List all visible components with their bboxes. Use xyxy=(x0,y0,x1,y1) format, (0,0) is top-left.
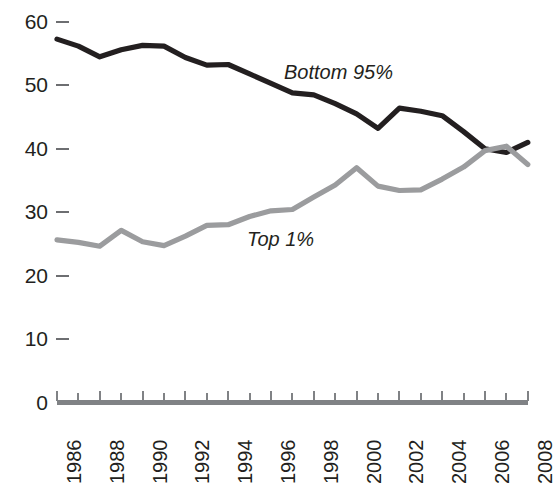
x-tick-1993 xyxy=(206,393,208,401)
x-tick-1997 xyxy=(291,393,293,401)
x-tick-1994 xyxy=(227,391,229,401)
x-tick-1987 xyxy=(77,393,79,401)
x-tick-label-1998: 1998 xyxy=(321,440,341,485)
x-tick-label-1996: 1996 xyxy=(278,440,298,485)
series-line-bottom-95 xyxy=(57,39,528,152)
x-tick-label-1994: 1994 xyxy=(235,440,255,485)
series-label-top-1: Top 1% xyxy=(247,228,314,251)
x-tick-1998 xyxy=(313,391,315,401)
x-tick-2003 xyxy=(420,393,422,401)
x-tick-label-2006: 2006 xyxy=(492,440,512,485)
x-tick-2008 xyxy=(527,391,529,401)
x-tick-label-1986: 1986 xyxy=(64,440,84,485)
series-label-bottom-95: Bottom 95% xyxy=(284,61,393,84)
x-tick-label-2000: 2000 xyxy=(364,440,384,485)
x-tick-1989 xyxy=(120,393,122,401)
x-tick-2002 xyxy=(398,391,400,401)
x-tick-label-1988: 1988 xyxy=(107,440,127,485)
x-tick-label-1990: 1990 xyxy=(150,440,170,485)
x-tick-label-1992: 1992 xyxy=(192,440,212,485)
x-tick-2005 xyxy=(463,393,465,401)
x-tick-1999 xyxy=(334,393,336,401)
x-tick-2007 xyxy=(505,393,507,401)
x-tick-1995 xyxy=(249,393,251,401)
x-tick-1991 xyxy=(163,393,165,401)
x-tick-1996 xyxy=(270,391,272,401)
x-tick-label-2008: 2008 xyxy=(535,440,555,485)
x-tick-label-2004: 2004 xyxy=(449,440,469,485)
x-tick-2004 xyxy=(441,391,443,401)
x-tick-2001 xyxy=(377,393,379,401)
x-tick-2000 xyxy=(356,391,358,401)
x-tick-1988 xyxy=(99,391,101,401)
x-tick-1992 xyxy=(184,391,186,401)
x-tick-label-2002: 2002 xyxy=(406,440,426,485)
x-tick-2006 xyxy=(484,391,486,401)
x-tick-1986 xyxy=(56,391,58,401)
x-tick-1990 xyxy=(142,391,144,401)
